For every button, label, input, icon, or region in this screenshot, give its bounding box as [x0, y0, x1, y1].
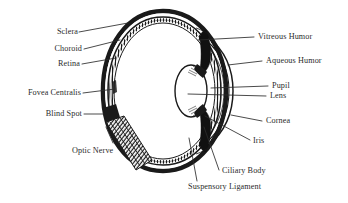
label-iris: Iris [253, 136, 264, 145]
label-blind-spot: Blind Spot [12, 109, 82, 118]
label-retina: Retina [10, 59, 80, 68]
label-choroid: Choroid [10, 44, 82, 53]
label-ciliary-body: Ciliary Body [222, 166, 266, 175]
leader-cornea [231, 115, 262, 121]
label-fovea-centralis: Fovea Centralis [2, 88, 81, 97]
label-vitreous-humor: Vitreous Humor [258, 32, 312, 41]
label-cornea: Cornea [266, 116, 290, 125]
label-aqueous-humor: Aqueous Humor [266, 56, 322, 65]
label-suspensory-ligament: Suspensory Ligament [188, 182, 261, 191]
label-lens: Lens [270, 91, 286, 100]
leader-aqueous-humor [228, 61, 262, 65]
eye-diagram-page: Sclera Choroid Retina Fovea Centralis Bl… [0, 0, 348, 203]
label-pupil: Pupil [272, 81, 290, 90]
label-sclera: Sclera [10, 27, 78, 36]
label-optic-nerve: Optic Nerve [72, 146, 113, 155]
